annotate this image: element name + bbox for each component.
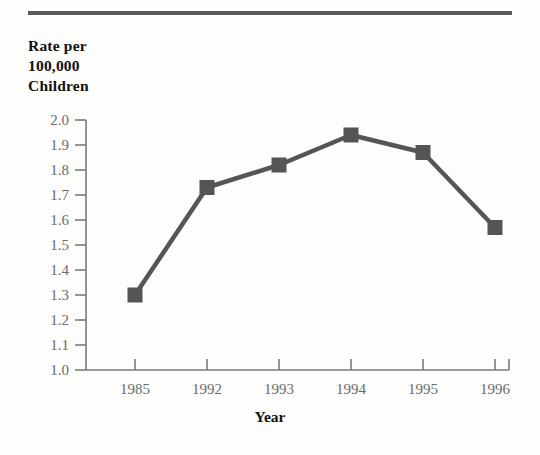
data-markers-group	[128, 128, 503, 303]
y-axis-tick-label: 1.6	[29, 212, 69, 229]
y-axis-tick-label: 1.3	[29, 287, 69, 304]
data-point-marker	[488, 220, 503, 235]
data-point-marker	[200, 180, 215, 195]
x-axis-tick-label: 1996	[460, 381, 530, 398]
chart-figure: Rate per 100,000 Children 1.01.11.21.31.…	[0, 0, 540, 455]
x-axis-tick-label: 1992	[172, 381, 242, 398]
y-axis-tick-label: 1.8	[29, 162, 69, 179]
y-axis-tick-label: 1.0	[29, 362, 69, 379]
data-point-marker	[416, 145, 431, 160]
y-axis-tick-label: 1.9	[29, 137, 69, 154]
x-axis-tick-label: 1995	[388, 381, 458, 398]
y-axis-tick-label: 1.1	[29, 337, 69, 354]
y-axis-tick-label: 1.5	[29, 237, 69, 254]
data-line	[135, 135, 495, 295]
y-axis-tick-label: 1.2	[29, 312, 69, 329]
data-point-marker	[344, 128, 359, 143]
y-axis-tick-label: 2.0	[29, 112, 69, 129]
x-axis-tick-label: 1985	[100, 381, 170, 398]
x-axis-title: Year	[0, 408, 540, 426]
x-axis-tick-label: 1994	[316, 381, 386, 398]
x-axis-tick-label: 1993	[244, 381, 314, 398]
data-point-marker	[128, 288, 143, 303]
data-point-marker	[272, 158, 287, 173]
y-axis-tick-label: 1.7	[29, 187, 69, 204]
y-axis-tick-label: 1.4	[29, 262, 69, 279]
